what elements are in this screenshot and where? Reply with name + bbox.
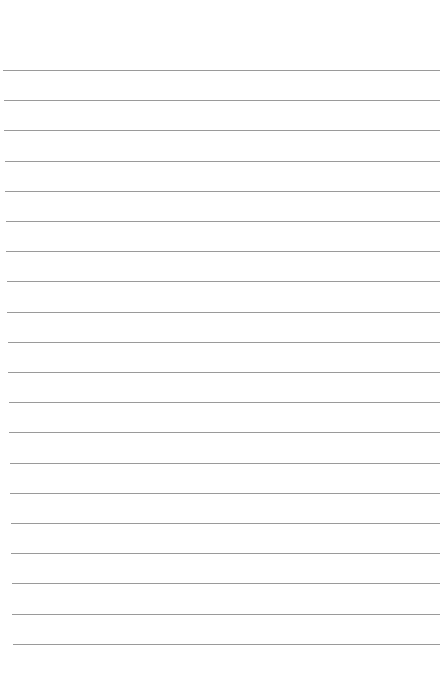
ruled-line xyxy=(7,312,440,313)
ruled-line xyxy=(8,342,440,343)
ruled-line xyxy=(11,553,440,554)
ruled-line xyxy=(7,281,440,282)
ruled-line xyxy=(10,463,440,464)
ruled-line xyxy=(4,100,440,101)
ruled-line xyxy=(9,432,440,433)
ruled-line xyxy=(13,644,440,645)
ruled-paper-page xyxy=(0,0,442,688)
ruled-line xyxy=(6,251,440,252)
ruled-line xyxy=(3,70,440,71)
ruled-line xyxy=(4,130,440,131)
ruled-line xyxy=(6,221,440,222)
ruled-line xyxy=(12,614,440,615)
ruled-line xyxy=(5,191,440,192)
ruled-line xyxy=(10,493,440,494)
ruled-line xyxy=(5,161,440,162)
ruled-line xyxy=(8,372,440,373)
ruled-line xyxy=(12,583,440,584)
ruled-line xyxy=(11,523,440,524)
ruled-line xyxy=(9,402,440,403)
